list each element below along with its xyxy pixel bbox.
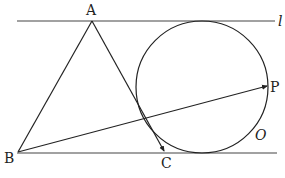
label-o: O: [255, 127, 267, 143]
segment-bp: [18, 86, 267, 152]
circle-o: [136, 21, 268, 153]
label-p: P: [270, 79, 279, 95]
segment-ac: [92, 21, 164, 151]
label-b: B: [4, 150, 14, 166]
label-l: l: [278, 13, 282, 29]
diagram-svg: A B C P O l: [0, 0, 285, 178]
label-c: C: [161, 155, 172, 171]
geometry-diagram: A B C P O l: [0, 0, 285, 178]
segment-ab: [18, 21, 92, 152]
label-a: A: [85, 2, 97, 18]
